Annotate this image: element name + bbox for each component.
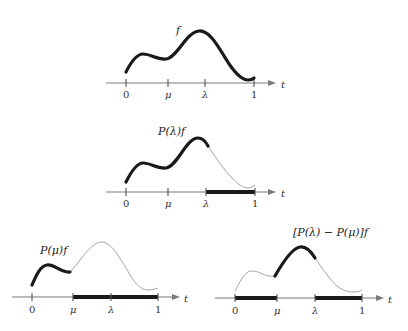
- label-P-lambda-f: P(λ)f: [157, 125, 187, 138]
- tick-label-lambda: λ: [107, 304, 114, 315]
- curve-f-ghost: [208, 146, 255, 188]
- panel-f: f 0 μ λ 1 t: [106, 24, 286, 100]
- curve-f-ghost: [70, 242, 158, 290]
- curve-f-ghost-right: [315, 258, 362, 292]
- curve-P-lambda-f: [126, 138, 208, 182]
- axis-label-t: t: [388, 294, 393, 305]
- axis-arrow-icon: [268, 189, 276, 195]
- panel-P-mu-f: P(μ)f 0 μ λ 1 t: [12, 242, 189, 315]
- axis-arrow-icon: [172, 294, 180, 300]
- axis-label-t: t: [184, 293, 189, 304]
- tick-label-mu: μ: [70, 304, 77, 315]
- curve-f-ghost-left: [235, 271, 275, 291]
- tick-label-1: 1: [251, 89, 257, 100]
- label-f: f: [175, 24, 182, 37]
- tick-label-lambda: λ: [311, 305, 318, 316]
- tick-label-0: 0: [232, 305, 238, 316]
- tick-label-0: 0: [123, 198, 129, 209]
- tick-label-lambda: λ: [202, 198, 209, 209]
- tick-label-1: 1: [359, 305, 365, 316]
- tick-label-1: 1: [155, 304, 161, 315]
- axis-arrow-icon: [268, 80, 276, 86]
- axis-arrow-icon: [376, 295, 384, 301]
- projection-diagram: f 0 μ λ 1 t P(λ)f 0 μ λ 1 t P(μ)f 0: [0, 0, 408, 331]
- axis-label-t: t: [281, 188, 286, 199]
- tick-label-1: 1: [252, 198, 258, 209]
- label-P-lambda-minus-P-mu-f: [P(λ) − P(μ)]f: [293, 226, 370, 239]
- axis-label-t: t: [281, 79, 286, 90]
- tick-label-mu: μ: [165, 198, 172, 209]
- curve-f: [126, 31, 254, 80]
- panel-P-lambda-f: P(λ)f 0 μ λ 1 t: [106, 125, 286, 209]
- tick-label-mu: μ: [274, 305, 281, 316]
- tick-label-mu: μ: [165, 89, 172, 100]
- tick-label-0: 0: [123, 89, 129, 100]
- tick-label-0: 0: [29, 304, 35, 315]
- panel-P-lambda-minus-P-mu-f: [P(λ) − P(μ)]f 0 μ λ 1 t: [215, 226, 393, 316]
- curve-P-lambda-minus-P-mu-f: [275, 247, 315, 276]
- curve-P-mu-f: [32, 265, 70, 285]
- tick-label-lambda: λ: [201, 89, 208, 100]
- label-P-mu-f: P(μ)f: [39, 244, 69, 257]
